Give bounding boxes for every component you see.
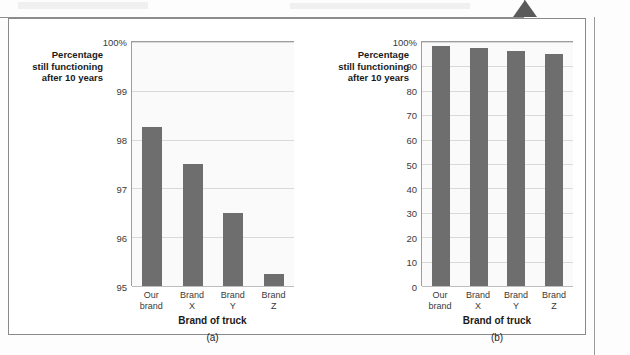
y-tick-label: 80 bbox=[406, 85, 417, 96]
y-tick-label: 95 bbox=[116, 282, 127, 293]
y-tick-label: 98 bbox=[116, 134, 127, 145]
bar bbox=[432, 46, 450, 286]
y-axis-title-a: Percentage still functioning after 10 ye… bbox=[25, 49, 103, 84]
y-axis-title-b: Percentage still functioning after 10 ye… bbox=[331, 49, 409, 84]
x-tick-labels-b: Our brandBrand XBrand YBrand Z bbox=[421, 290, 573, 312]
x-tick-label: Brand Y bbox=[213, 290, 254, 312]
y-tick-label: 30 bbox=[406, 208, 417, 219]
figure-card: Percentage still functioning after 10 ye… bbox=[8, 18, 586, 335]
x-axis-title-a: Brand of truck bbox=[131, 315, 294, 326]
up-triangle-marker-icon bbox=[513, 0, 537, 17]
y-tick-label: 70 bbox=[406, 110, 417, 121]
x-tick-label: Our brand bbox=[421, 290, 459, 312]
plot-wrap-b: 0102030405060708090100% Our brandBrand X… bbox=[421, 41, 573, 286]
chart-panel-b: Percentage still functioning after 10 ye… bbox=[309, 19, 587, 334]
figure-row: Percentage still functioning after 10 ye… bbox=[9, 19, 585, 334]
plot-wrap-a: 9596979899100% Our brandBrand XBrand YBr… bbox=[131, 41, 294, 286]
chart-panel-a: Percentage still functioning after 10 ye… bbox=[9, 19, 309, 334]
x-tick-label: Brand Z bbox=[535, 290, 573, 312]
bar bbox=[264, 274, 284, 286]
bars-b bbox=[422, 42, 573, 286]
right-margin-rule bbox=[594, 17, 595, 355]
scan-artifact bbox=[290, 3, 470, 9]
panel-caption-b: (b) bbox=[421, 332, 573, 343]
bar-slot bbox=[173, 42, 214, 286]
plot-area-b: 0102030405060708090100% bbox=[421, 41, 573, 286]
plot-area-a: 9596979899100% bbox=[131, 41, 294, 286]
x-tick-label: Our brand bbox=[131, 290, 172, 312]
bars-a bbox=[132, 42, 294, 286]
x-tick-label: Brand Z bbox=[253, 290, 294, 312]
y-tick-label: 99 bbox=[116, 85, 127, 96]
y-tick-label: 40 bbox=[406, 183, 417, 194]
x-axis-title-b: Brand of truck bbox=[421, 315, 573, 326]
bar-slot bbox=[498, 42, 536, 286]
bar-slot bbox=[422, 42, 460, 286]
y-tick-label: 0 bbox=[412, 282, 417, 293]
bar bbox=[545, 54, 563, 286]
x-tick-label: Brand Y bbox=[497, 290, 535, 312]
bar bbox=[142, 127, 162, 286]
scan-artifact bbox=[18, 2, 148, 9]
bar-slot bbox=[460, 42, 498, 286]
x-tick-label: Brand X bbox=[459, 290, 497, 312]
panel-caption-a: (a) bbox=[131, 332, 294, 343]
bar-slot bbox=[535, 42, 573, 286]
x-tick-labels-a: Our brandBrand XBrand YBrand Z bbox=[131, 290, 294, 312]
bar bbox=[183, 164, 203, 286]
y-tick-label: 100% bbox=[103, 37, 127, 48]
gridline: 0 bbox=[422, 286, 573, 287]
y-tick-label: 60 bbox=[406, 134, 417, 145]
bar-slot bbox=[254, 42, 295, 286]
bar bbox=[223, 213, 243, 286]
y-tick-label: 10 bbox=[406, 257, 417, 268]
y-tick-label: 96 bbox=[116, 232, 127, 243]
y-tick-label: 90 bbox=[406, 61, 417, 72]
bar-slot bbox=[213, 42, 254, 286]
y-tick-label: 50 bbox=[406, 159, 417, 170]
gridline: 95 bbox=[132, 286, 294, 287]
bar bbox=[470, 48, 488, 286]
bar-slot bbox=[132, 42, 173, 286]
y-tick-label: 97 bbox=[116, 183, 127, 194]
y-tick-label: 100% bbox=[393, 37, 417, 48]
y-tick-label: 20 bbox=[406, 232, 417, 243]
bar bbox=[507, 51, 525, 286]
x-tick-label: Brand X bbox=[172, 290, 213, 312]
